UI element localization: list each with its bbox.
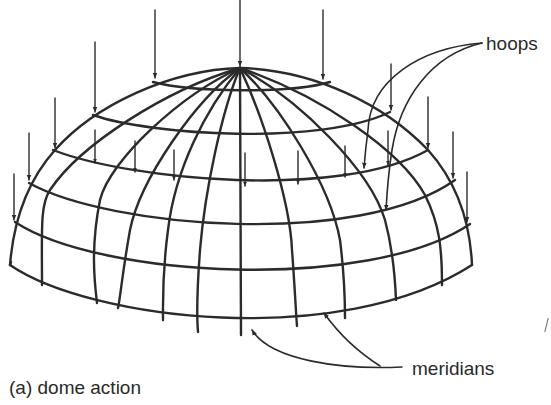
meridians-label: meridians: [412, 359, 494, 378]
figure-caption: (a) dome action: [9, 378, 141, 397]
dome-action-diagram: [0, 0, 551, 405]
hoops-leader-1: [364, 43, 482, 168]
hoops-leaders: [364, 43, 482, 210]
hoop-1: [153, 82, 330, 90]
meridians-leader-2: [324, 313, 380, 366]
hoop-5: [15, 222, 470, 270]
hoops-label: hoops: [486, 34, 538, 53]
hoop-4: [29, 180, 455, 224]
meridian-lines: [42, 68, 442, 335]
meridians-leaders: [252, 313, 402, 368]
meridians-leader-1: [252, 330, 402, 368]
